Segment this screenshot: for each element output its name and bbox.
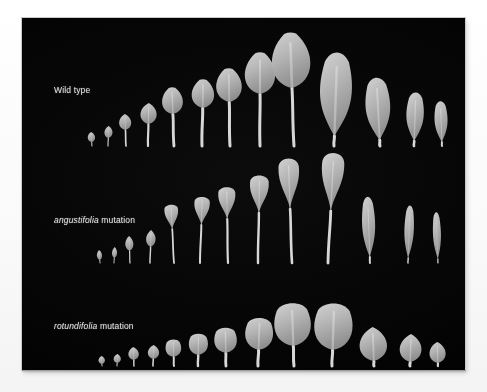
row-label-species-italic: rotundifolia [54,321,97,331]
row-label-rotundifolia: rotundifolia mutation [54,321,134,331]
figure-root: Wild type angustifolia mutation rotundif… [0,0,487,392]
row-label-angustifolia: angustifolia mutation [54,215,135,225]
panel-drop-shadow [22,370,466,373]
photo-background [22,18,465,370]
row-label-text: mutation [99,215,135,225]
leaf-series-photograph: Wild type angustifolia mutation rotundif… [22,18,465,370]
row-label-species-italic: angustifolia [54,215,99,225]
row-label-wild-type: Wild type [54,85,90,95]
row-label-text: Wild type [54,85,90,95]
row-label-text: mutation [97,321,133,331]
